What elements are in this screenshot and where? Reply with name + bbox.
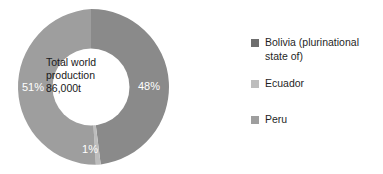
slice-label-peru: 51%	[22, 81, 44, 93]
legend-swatch-peru-icon	[251, 116, 259, 124]
donut-svg: 48% 1% 51%	[11, 7, 171, 167]
legend-label-ecuador: Ecuador	[265, 77, 304, 91]
donut-chart: 48% 1% 51%	[11, 7, 171, 167]
slice-label-ecuador: 1%	[82, 143, 98, 155]
donut-hole	[53, 49, 130, 126]
legend-item-bolivia[interactable]: Bolivia (plurinational state of)	[251, 36, 383, 63]
chart-legend: Bolivia (plurinational state of) Ecuador…	[251, 36, 383, 126]
legend-item-peru[interactable]: Peru	[251, 113, 383, 127]
legend-label-peru: Peru	[265, 113, 287, 127]
legend-swatch-ecuador-icon	[251, 80, 259, 88]
legend-label-bolivia: Bolivia (plurinational state of)	[265, 36, 383, 63]
slice-label-bolivia: 48%	[138, 80, 160, 92]
legend-item-ecuador[interactable]: Ecuador	[251, 77, 383, 91]
donut-chart-figure: 48% 1% 51% Total world production 86,000…	[0, 0, 383, 174]
legend-swatch-bolivia-icon	[251, 39, 259, 47]
